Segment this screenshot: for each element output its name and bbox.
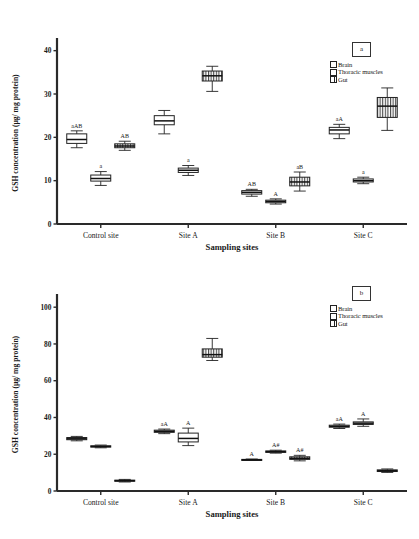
legend-label-thoracic: Thoracic muscles — [338, 312, 383, 319]
panel-label-b: b — [352, 286, 371, 301]
swatch-thoracic-icon — [330, 69, 337, 76]
svg-text:Sampling sites: Sampling sites — [206, 242, 259, 252]
svg-text:20: 20 — [44, 450, 52, 459]
box-annotation: aB — [296, 164, 303, 170]
swatch-thoracic-icon — [330, 313, 337, 320]
box-gut: A# — [290, 447, 310, 461]
box-thoracic-muscles: a — [178, 157, 198, 175]
legend-label-brain: Brain — [338, 61, 352, 68]
box-annotation: A — [186, 420, 191, 426]
box-thoracic-muscles: A — [266, 191, 286, 204]
svg-text:100: 100 — [40, 303, 51, 312]
box-thoracic-muscles — [91, 445, 111, 448]
box-gut — [377, 88, 397, 130]
swatch-brain-icon — [330, 61, 337, 68]
box-brain: A — [242, 451, 262, 461]
svg-text:Site B: Site B — [266, 231, 285, 240]
box-brain: aA — [329, 416, 349, 429]
svg-text:Control site: Control site — [83, 498, 119, 507]
legend-item-thoracic: Thoracic muscles — [330, 68, 383, 75]
box-brain: AB — [242, 181, 262, 196]
legend-label-thoracic: Thoracic muscles — [338, 68, 383, 75]
svg-text:30: 30 — [44, 90, 52, 99]
legend-item-gut: Gut — [330, 76, 383, 83]
box-annotation: AB — [248, 181, 256, 187]
box-gut — [202, 338, 222, 360]
svg-text:40: 40 — [44, 413, 52, 422]
legend-item-gut: Gut — [330, 320, 383, 327]
legend-item-thoracic: Thoracic muscles — [330, 312, 383, 319]
box-annotation: aA — [336, 416, 344, 422]
box-gut — [115, 479, 135, 482]
box-annotation: a — [187, 157, 190, 163]
box-annotation: a — [362, 169, 365, 175]
box-annotation: A# — [296, 447, 303, 453]
svg-text:0: 0 — [48, 487, 52, 496]
box-annotation: A — [361, 411, 366, 417]
box-brain: aA — [329, 116, 349, 139]
svg-text:GSH concentration (µg/ mg prot: GSH concentration (µg/ mg protein) — [11, 74, 20, 192]
swatch-gut-icon — [330, 320, 337, 327]
chart-panel-b: 020406080100GSH concentration (µg/ mg pr… — [0, 268, 419, 539]
legend-label-brain: Brain — [338, 305, 352, 312]
box-thoracic-muscles: A# — [266, 442, 286, 453]
box-thoracic-muscles: A — [353, 411, 373, 427]
box-thoracic-muscles: a — [353, 169, 373, 184]
box-gut: AB — [115, 133, 135, 150]
legend-label-gut: Gut — [338, 76, 348, 83]
box-annotation: AB — [121, 133, 129, 139]
legend-a: a Brain Thoracic muscles Gut — [330, 42, 383, 83]
box-annotation: A — [250, 451, 255, 457]
svg-text:Site A: Site A — [179, 498, 198, 507]
box-gut: aB — [290, 164, 310, 191]
swatch-brain-icon — [330, 305, 337, 312]
box-annotation: aA — [336, 116, 344, 122]
box-annotation: aA — [161, 421, 169, 427]
svg-text:Control site: Control site — [83, 231, 119, 240]
box-annotation: aAB — [71, 123, 82, 129]
chart-panel-a: 010203040GSH concentration (µg/ mg prote… — [0, 0, 419, 268]
box-brain: aAB — [67, 123, 87, 148]
box-brain: aA — [154, 421, 174, 434]
boxplot-chart-a: 010203040GSH concentration (µg/ mg prote… — [0, 0, 419, 268]
svg-text:GSH concentration (µg/ mg prot: GSH concentration (µg/ mg protein) — [11, 335, 20, 453]
legend-label-gut: Gut — [338, 320, 348, 327]
svg-text:Site A: Site A — [179, 231, 198, 240]
box-annotation: A# — [272, 442, 279, 448]
box-brain — [154, 110, 174, 133]
box-annotation: A — [274, 191, 279, 197]
svg-text:Site C: Site C — [354, 231, 373, 240]
box-thoracic-muscles: A — [178, 420, 198, 446]
legend-item-brain: Brain — [330, 305, 383, 312]
svg-text:10: 10 — [44, 176, 52, 185]
svg-text:80: 80 — [44, 340, 52, 349]
box-gut — [377, 469, 397, 472]
svg-text:60: 60 — [44, 376, 52, 385]
legend-b: b Brain Thoracic muscles Gut — [330, 286, 383, 327]
svg-text:Sampling sites: Sampling sites — [206, 509, 259, 519]
box-gut — [202, 66, 222, 91]
panel-label-a: a — [352, 42, 371, 57]
swatch-gut-icon — [330, 76, 337, 83]
svg-text:0: 0 — [48, 220, 52, 229]
box-thoracic-muscles: a — [91, 163, 111, 185]
box-brain — [67, 436, 87, 440]
svg-text:Site C: Site C — [354, 498, 373, 507]
svg-text:40: 40 — [44, 46, 52, 55]
legend-item-brain: Brain — [330, 61, 383, 68]
svg-text:Site B: Site B — [266, 498, 285, 507]
box-annotation: a — [99, 163, 102, 169]
svg-text:20: 20 — [44, 133, 52, 142]
